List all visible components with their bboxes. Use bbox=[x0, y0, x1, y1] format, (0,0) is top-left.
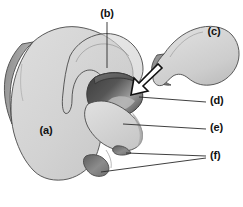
notch-projection-lower bbox=[83, 155, 108, 177]
label-c: (c) bbox=[208, 25, 221, 37]
leader-line-f-upper bbox=[126, 153, 206, 156]
label-d: (d) bbox=[210, 94, 224, 106]
label-e: (e) bbox=[210, 121, 223, 133]
label-f: (f) bbox=[210, 149, 221, 161]
figure-container: (a) (b) (c) (d) (e) (f) bbox=[0, 0, 243, 207]
label-a: (a) bbox=[40, 124, 53, 136]
detached-body-group bbox=[152, 26, 239, 85]
leader-line-d bbox=[139, 97, 206, 102]
label-b: (b) bbox=[100, 7, 114, 19]
detached-body bbox=[153, 26, 239, 85]
leader-line-f-lower bbox=[101, 158, 206, 172]
anatomical-illustration: (a) (b) (c) (d) (e) (f) bbox=[0, 0, 243, 207]
